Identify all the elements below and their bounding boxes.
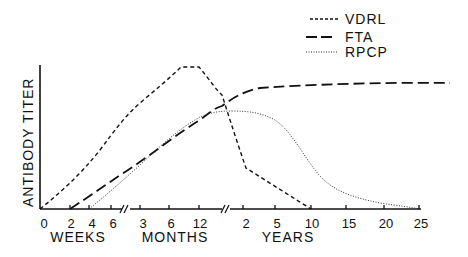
tick-label: 2 <box>242 216 249 231</box>
y-axis-label: ANTIBODY TITER <box>20 78 36 207</box>
legend-vdrl-label: VDRL <box>345 11 386 27</box>
tick-label: 25 <box>414 216 428 231</box>
legend: VDRL FTA RPCP <box>306 11 388 60</box>
legend-fta-label: FTA <box>345 29 373 45</box>
unit-years: YEARS <box>262 229 314 245</box>
unit-weeks: WEEKS <box>50 229 106 245</box>
legend-rpcp-label: RPCP <box>345 44 388 60</box>
tick-label: 0 <box>40 216 47 231</box>
series-fta <box>70 83 450 209</box>
tick-label: 15 <box>342 216 356 231</box>
series-rpcp <box>89 111 420 209</box>
series-vdrl <box>40 67 311 209</box>
tick-label: 6 <box>109 216 116 231</box>
unit-months: MONTHS <box>142 229 209 245</box>
tick-label: 20 <box>379 216 393 231</box>
antibody-titer-chart: VDRL FTA RPCP ANTIBODY TITER 0 2 <box>0 0 468 257</box>
